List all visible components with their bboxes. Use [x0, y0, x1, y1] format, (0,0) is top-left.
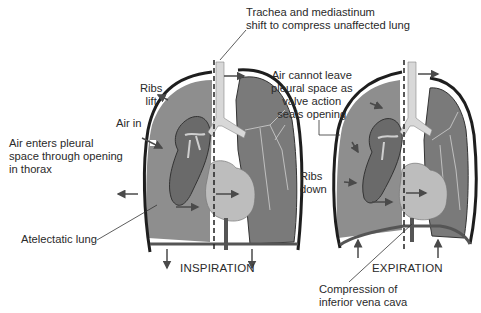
label-line: Atelectatic lung: [21, 233, 97, 246]
label-air-enters: Air enters pleural space through opening…: [9, 137, 123, 176]
label-line: in thorax: [9, 163, 123, 176]
label-ribs-lift: Ribs lift: [140, 82, 162, 108]
label-line: pleural space as: [271, 82, 352, 95]
label-atelectatic-lung: Atelectatic lung: [21, 233, 97, 246]
label-line: valve action: [271, 95, 352, 108]
label-trachea-shift: Trachea and mediastinum shift to compres…: [246, 6, 410, 32]
label-line: lift: [140, 95, 162, 108]
label-line: down: [300, 183, 327, 196]
label-line: seals opening: [271, 108, 352, 121]
caption-inspiration: INSPIRATION: [180, 262, 255, 274]
label-line: inferior vena cava: [319, 296, 407, 309]
label-compression-ivc: Compression of inferior vena cava: [319, 283, 407, 309]
label-ribs-down: Ribs down: [300, 170, 327, 196]
label-line: space through opening: [9, 150, 123, 163]
label-line: Ribs: [300, 170, 327, 183]
label-line: Trachea and mediastinum: [246, 6, 410, 19]
caption-expiration: EXPIRATION: [372, 262, 443, 274]
label-line: Compression of: [319, 283, 407, 296]
label-line: shift to compress unaffected lung: [246, 19, 410, 32]
label-line: Air cannot leave: [271, 69, 352, 82]
label-line: Air in: [116, 117, 142, 130]
label-air-cannot-leave: Air cannot leave pleural space as valve …: [271, 69, 352, 121]
label-air-in: Air in: [116, 117, 142, 130]
label-line: Air enters pleural: [9, 137, 123, 150]
inspiration-panel: [97, 30, 302, 268]
label-line: Ribs: [140, 82, 162, 95]
